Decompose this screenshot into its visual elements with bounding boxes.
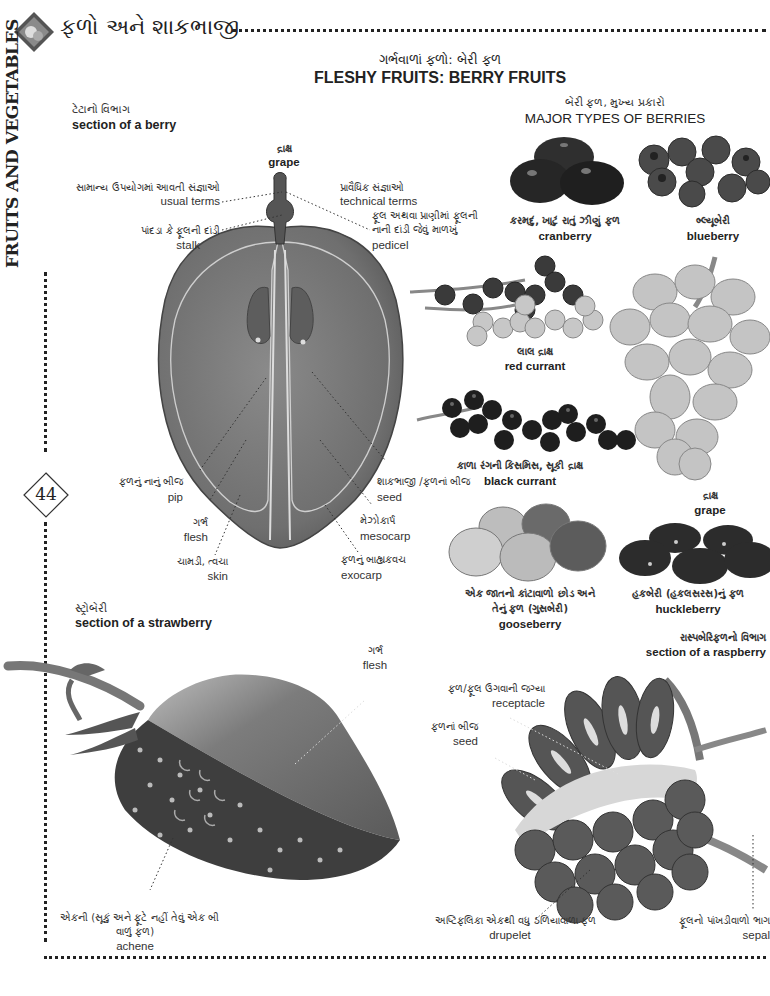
mesocarp-label-en: mesocarp xyxy=(360,530,411,542)
gooseberry-illustration xyxy=(448,502,608,582)
skin-label-en: skin xyxy=(120,570,228,582)
grape-type-label-gu: દ્રાક્ષ xyxy=(670,490,750,502)
black-currant-illustration xyxy=(412,384,638,454)
huckleberry-label-en: huckleberry xyxy=(610,603,766,615)
grape-type-label-en: grape xyxy=(670,504,750,516)
blueberry-illustration xyxy=(636,138,766,208)
stalk-label-gu: પાંદડા કે ફૂલની દાંડી xyxy=(60,225,220,237)
strawberry-section-illustration xyxy=(0,640,420,890)
blueberry-label-gu: બ્લ્યૂબેરી xyxy=(660,215,766,227)
technical-terms-gu: પ્રાવૈધિક સંજ્ઞાઓ xyxy=(340,182,404,194)
strawberry-flesh-label-gu: ગર્ભ xyxy=(355,645,395,657)
huckleberry-label-gu: હકબેરી (હકલસરસ)નું ફળ xyxy=(610,588,766,600)
drupelet-label-gu: અષ્ટિફલિકા એકથી વધુ ઠળિયાવાળા ફળ xyxy=(435,915,585,927)
raspberry-seed-label-gu: ફળનાં બીજ xyxy=(420,721,478,733)
strawberry-title-en: section of a strawberry xyxy=(75,616,212,630)
exocarp-label-en: exocarp xyxy=(341,569,382,581)
achene-label-en: achene xyxy=(60,940,210,952)
gooseberry-label-gu-2: તેનું ફળ (ગુસબેરી) xyxy=(430,603,630,615)
usual-terms-en: usual terms xyxy=(40,195,220,207)
major-types-title-gu: બેરી ફળ, મુખ્ય પ્રકારો xyxy=(500,96,730,109)
pedicel-label-gu-2: નાની દાંડી જેવું માળખું xyxy=(372,224,457,236)
skin-label-gu: ચામડી, ત્વચા xyxy=(120,556,228,568)
gooseberry-label-gu-1: એક જાતનો કાંટાવાળો છોડ અને xyxy=(430,588,630,600)
receptacle-label-gu: ફળ/ફૂલ ઉગવાની જગ્યા xyxy=(420,683,545,695)
technical-terms-en: technical terms xyxy=(340,195,417,207)
black-currant-label-en: black currant xyxy=(430,475,610,487)
cranberry-illustration xyxy=(508,135,628,207)
raspberry-title-en: section of a raspberry xyxy=(560,646,766,658)
sepal-label-gu: ફૂલનો પાંખડીવાળો ભાગ xyxy=(620,915,770,927)
achene-label-gu-1: એકની (સૂકું અને ફૂટે નહીં તેવું એક બી xyxy=(60,912,210,924)
huckleberry-illustration xyxy=(620,522,766,586)
mesocarp-label-gu: મેઝોકાર્પ xyxy=(360,515,395,527)
usual-terms-gu: સામાન્ય ઉપયોગમાં આવતી સંજ્ઞાઓ xyxy=(40,182,220,194)
raspberry-title-gu: રાસ્પબેરિફળનો વિભાગ xyxy=(560,632,766,644)
pedicel-label-gu-1: ફૂલ અથવા પ્રાણીમાં ફૂલની xyxy=(372,210,478,222)
major-types-title-en: MAJOR TYPES OF BERRIES xyxy=(500,111,730,126)
raspberry-seed-label-en: seed xyxy=(420,735,478,747)
achene-label-gu-2: વાળું ફળ) xyxy=(60,926,210,938)
cranberry-label-gu: કરમદું, ખાટું રાતું ઝીણું ફળ xyxy=(490,215,640,227)
cranberry-label-en: cranberry xyxy=(490,230,640,242)
exocarp-label-gu: ફળનું બાહ્યકવચ xyxy=(341,554,406,566)
sepal-label-en: sepal xyxy=(620,929,770,941)
blueberry-label-en: blueberry xyxy=(660,230,766,242)
pedicel-label-en: pedicel xyxy=(372,239,408,251)
gooseberry-label-en: gooseberry xyxy=(430,618,630,630)
receptacle-label-en: receptacle xyxy=(420,697,545,709)
red-currant-illustration xyxy=(405,250,615,345)
red-currant-label-en: red currant xyxy=(480,360,590,372)
red-currant-label-gu: લાલ દ્રાક્ષ xyxy=(480,346,590,358)
flesh-label-en: flesh xyxy=(120,531,208,543)
strawberry-title-gu: સ્ટ્રોબેરી xyxy=(75,602,107,615)
pip-label-en: pip xyxy=(60,491,183,503)
flesh-label-gu: ગર્ભ xyxy=(120,517,208,529)
drupelet-label-en: drupelet xyxy=(435,929,585,941)
seed-label-en: seed xyxy=(377,491,402,503)
pip-label-gu: ફળનું નાનું બીજ xyxy=(60,476,183,488)
stalk-label-en: stalk xyxy=(60,239,200,251)
black-currant-label-gu: કાળા રંગની કિસમિસ, સૂકી દ્રાક્ષ xyxy=(430,460,610,472)
strawberry-flesh-label-en: flesh xyxy=(355,659,395,671)
